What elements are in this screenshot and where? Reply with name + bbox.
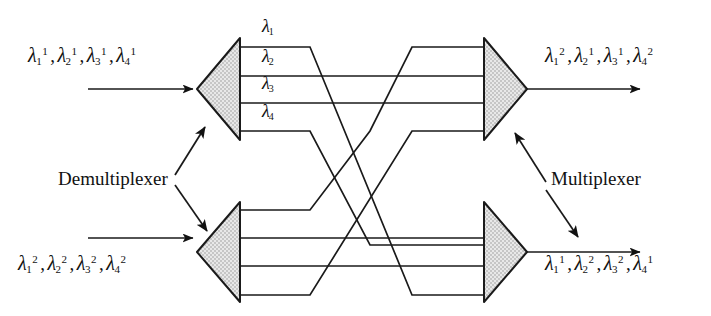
demultiplexer-top xyxy=(197,38,240,140)
mux-caption-arrow-top xyxy=(515,133,546,182)
inner-label-lambda-1: λ1 xyxy=(262,16,274,37)
input-top-ch1: λ11 xyxy=(28,45,48,66)
input-bottom-ch2: λ22 xyxy=(47,253,67,274)
wdm-crossconnect-diagram: λ11,λ21,λ31,λ41 λ12,λ22,λ32,λ42 λ12,λ21,… xyxy=(0,0,711,316)
mux-caption-arrow-bottom xyxy=(546,190,578,237)
output-bottom-ch4: λ41 xyxy=(633,253,653,274)
output-top-ch4: λ42 xyxy=(633,45,653,66)
input-bottom-ch3: λ32 xyxy=(77,253,97,274)
output-top-ch3: λ31 xyxy=(604,45,624,66)
demultiplexer-caption: Demultiplexer xyxy=(58,168,168,190)
inner-label-lambda-3: λ3 xyxy=(262,73,274,94)
multiplexer-caption: Multiplexer xyxy=(551,168,641,190)
input-top-ch2: λ21 xyxy=(57,45,77,66)
demultiplexer-bottom xyxy=(197,202,240,302)
demux-caption-arrow-bottom xyxy=(175,185,207,231)
output-bottom-ch3: λ32 xyxy=(604,253,624,274)
output-top-ch1: λ12 xyxy=(545,45,565,66)
input-top-ch4: λ41 xyxy=(116,45,136,66)
inner-label-lambda-2: λ2 xyxy=(262,46,274,67)
output-top-label: λ12,λ21,λ31,λ42 xyxy=(545,44,653,67)
multiplexer-top xyxy=(484,38,527,140)
multiplexer-bottom xyxy=(484,202,527,302)
output-top-ch2: λ21 xyxy=(574,45,594,66)
output-bottom-label: λ11,λ22,λ32,λ41 xyxy=(545,252,653,275)
output-bottom-ch2: λ22 xyxy=(574,253,594,274)
input-bottom-ch4: λ42 xyxy=(106,253,126,274)
link-top-ch4-to-mux-bottom xyxy=(240,131,484,245)
input-bottom-ch1: λ12 xyxy=(18,253,38,274)
inner-label-lambda-4: λ4 xyxy=(262,101,274,122)
output-bottom-ch1: λ11 xyxy=(545,253,565,274)
link-bottom-ch4-to-mux-top xyxy=(240,131,484,295)
demux-caption-arrow-top xyxy=(175,127,205,175)
link-bottom-ch1-to-mux-top xyxy=(240,47,484,210)
input-top-label: λ11,λ21,λ31,λ41 xyxy=(28,44,136,67)
input-bottom-label: λ12,λ22,λ32,λ42 xyxy=(18,252,126,275)
link-top-ch1-to-mux-bottom xyxy=(240,47,484,295)
input-top-ch3: λ31 xyxy=(87,45,107,66)
